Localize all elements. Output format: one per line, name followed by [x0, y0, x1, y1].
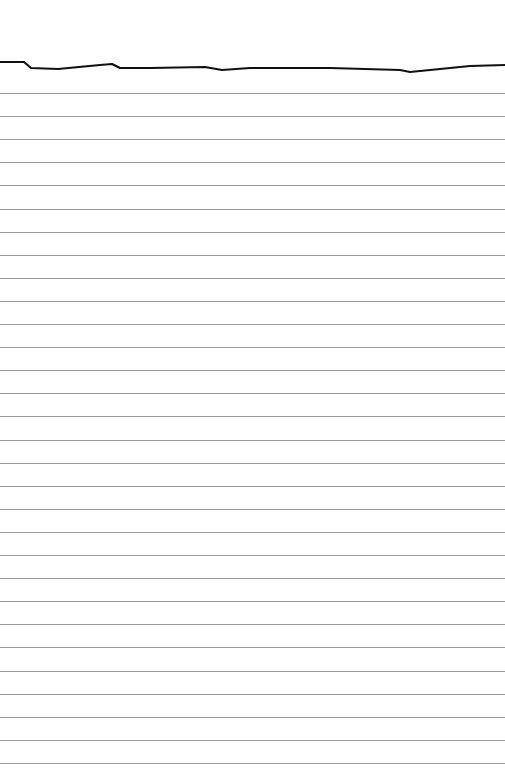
ruled-line	[0, 232, 505, 233]
ruled-line	[0, 162, 505, 163]
ruled-line	[0, 116, 505, 117]
ruled-line	[0, 694, 505, 695]
lined-paper-sheet	[0, 0, 505, 783]
ruled-line	[0, 278, 505, 279]
ruled-line	[0, 440, 505, 441]
ruled-line	[0, 647, 505, 648]
ruled-line	[0, 301, 505, 302]
ruled-line	[0, 532, 505, 533]
torn-top-edge	[0, 0, 505, 783]
ruled-line	[0, 624, 505, 625]
ruled-line	[0, 578, 505, 579]
ruled-line	[0, 740, 505, 741]
ruled-line	[0, 185, 505, 186]
ruled-line	[0, 416, 505, 417]
ruled-line	[0, 255, 505, 256]
ruled-line	[0, 671, 505, 672]
ruled-line	[0, 601, 505, 602]
ruled-line	[0, 93, 505, 94]
ruled-line	[0, 324, 505, 325]
ruled-line	[0, 486, 505, 487]
ruled-line	[0, 463, 505, 464]
ruled-line	[0, 370, 505, 371]
ruled-line	[0, 763, 505, 764]
ruled-line	[0, 555, 505, 556]
ruled-line	[0, 209, 505, 210]
ruled-line	[0, 139, 505, 140]
ruled-line	[0, 509, 505, 510]
ruled-line	[0, 347, 505, 348]
ruled-line	[0, 393, 505, 394]
ruled-line	[0, 717, 505, 718]
